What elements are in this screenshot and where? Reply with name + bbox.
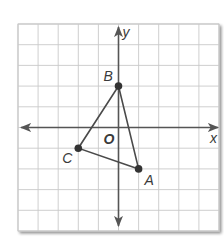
vertex-point-b: [115, 82, 123, 90]
vertex-label-b: B: [104, 68, 113, 84]
vertex-point-c: [75, 144, 83, 152]
x-axis-label: x: [209, 130, 218, 146]
vertex-label-a: A: [144, 172, 154, 188]
y-axis-label: y: [122, 24, 131, 40]
coordinate-plane-diagram: x y O ABC: [0, 0, 224, 244]
origin-label: O: [104, 131, 115, 147]
vertex-point-a: [135, 165, 143, 173]
vertex-label-c: C: [62, 150, 73, 166]
